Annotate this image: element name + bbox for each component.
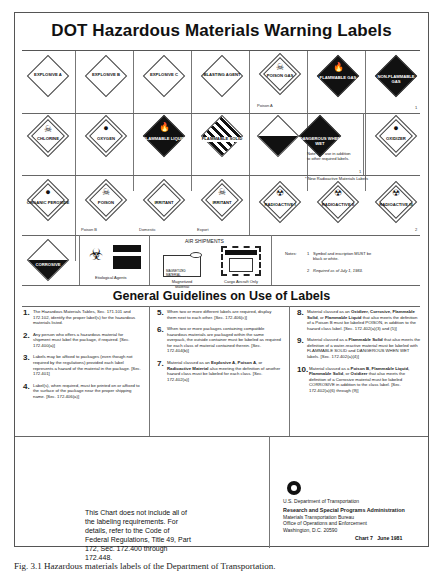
note-text: Symbol and inscription MUST be black or … bbox=[313, 251, 375, 261]
divider bbox=[271, 235, 272, 285]
row-divider bbox=[15, 436, 428, 437]
figure-caption: Fig. 3.1 Hazardous materials labels of t… bbox=[14, 561, 275, 571]
cargo-aircraft-only-label bbox=[221, 246, 261, 276]
footnote-ref: 1 bbox=[359, 169, 361, 174]
label-text: FLAMMABLE LIQUID bbox=[141, 137, 187, 142]
row-divider bbox=[22, 285, 420, 286]
label-text: EXPLOSIVE A bbox=[25, 73, 71, 78]
spontaneously-combustible-label-icon bbox=[257, 115, 299, 157]
label-text: EXPLOSIVE B bbox=[83, 73, 129, 78]
divider bbox=[363, 113, 364, 175]
divider bbox=[269, 436, 270, 548]
logo-center bbox=[291, 485, 297, 491]
divider bbox=[365, 51, 366, 191]
flame-icon: 🔥 bbox=[141, 122, 187, 132]
skull-icon: ☠ bbox=[25, 124, 71, 134]
radiation-trefoil-icon: ☢ bbox=[257, 188, 303, 198]
radiation-trefoil-icon: ☢ bbox=[315, 188, 361, 198]
guideline-item: 8.Material classed as an Oxidizer, Corro… bbox=[297, 309, 421, 331]
label-caption: Poison A bbox=[257, 103, 273, 108]
label-banner bbox=[225, 250, 257, 255]
label-text: BLASTING AGENT bbox=[199, 73, 245, 78]
guidelines-column-3: 8.Material classed as an Oxidizer, Corro… bbox=[297, 309, 421, 400]
label-text: CORROSIVE bbox=[25, 263, 71, 268]
chart-frame: DOT Hazardous Materials Warning Labels E… bbox=[14, 12, 429, 547]
etiological-agents-label: ☣ bbox=[87, 241, 143, 271]
note-number: 2 bbox=[307, 268, 309, 273]
divider bbox=[249, 183, 250, 235]
skull-icon: ☠ bbox=[199, 187, 245, 197]
skull-icon: ☠ bbox=[257, 62, 303, 72]
row-divider bbox=[22, 306, 420, 307]
label-text: ORGANIC PEROXIDE bbox=[25, 201, 71, 206]
cargo-caption: Cargo Aircraft Only bbox=[223, 279, 259, 284]
usage-note: Note: For use in addition to other requi… bbox=[307, 151, 351, 161]
divider bbox=[149, 306, 150, 436]
label-text: CHLORINE bbox=[25, 137, 71, 142]
label-text: NON-FLAMMABLE GAS bbox=[373, 75, 419, 84]
label-text: OXYGEN bbox=[83, 137, 129, 142]
guideline-item: 2.Any person who offers a hazardous mate… bbox=[23, 332, 141, 349]
label-block bbox=[113, 256, 141, 269]
label-text: FLAMMABLE GAS bbox=[315, 76, 361, 81]
note-text: Required as of July 1, 1983. bbox=[313, 268, 363, 273]
disclaimer-text: This Chart does not include all of the l… bbox=[85, 508, 193, 563]
label-text: DANGEROUS WHEN WET bbox=[297, 137, 343, 146]
divider bbox=[149, 235, 150, 285]
magnet-icon bbox=[190, 252, 202, 258]
guidelines-column-1: 1.The Hazardous Materials Tables, Sec. 1… bbox=[23, 309, 141, 406]
label-text: POISON GAS bbox=[257, 74, 303, 79]
divider bbox=[79, 235, 80, 285]
aircraft-icon bbox=[229, 258, 253, 272]
address: Washington, D.C. 20590 bbox=[283, 527, 405, 534]
label-text: IRRITANT bbox=[141, 201, 187, 206]
guideline-item: 3.Labels may be affixed to packages (eve… bbox=[23, 354, 141, 376]
divider bbox=[307, 51, 308, 191]
chart-id: Chart 7 June 1981 bbox=[355, 535, 402, 541]
label-text: MAGNETIZED MATERIAL bbox=[166, 269, 200, 277]
label-text: RADIOACTIVE II bbox=[315, 203, 361, 208]
flame-icon: 🔥 bbox=[315, 62, 361, 72]
corrosive-label-icon bbox=[27, 239, 69, 281]
label-text: RADIOACTIVE III bbox=[373, 203, 419, 208]
guideline-item: 7.Material classed as an Explosive A, Po… bbox=[157, 360, 281, 382]
flame-over-circle-icon: ● bbox=[25, 187, 71, 197]
guideline-item: 4.Label(s), when required, must be print… bbox=[23, 383, 141, 400]
label-text: POISON bbox=[83, 201, 129, 206]
skull-icon: ☠ bbox=[83, 187, 129, 197]
biohazard-icon: ☣ bbox=[89, 247, 103, 263]
magnetized-caption: Magnetized Material bbox=[165, 279, 199, 289]
grid-divider bbox=[22, 50, 420, 51]
divider bbox=[191, 51, 192, 191]
flame-over-circle-icon: ● bbox=[83, 123, 129, 133]
footnote-ref: 2 bbox=[415, 227, 417, 232]
divider bbox=[75, 51, 76, 261]
administration-name: Research and Special Programs Administra… bbox=[283, 507, 405, 514]
guideline-item: 5.When two or more different labels are … bbox=[157, 309, 281, 320]
radiation-trefoil-icon: ☢ bbox=[373, 188, 419, 198]
dot-logo-icon bbox=[287, 481, 301, 495]
label-text: EXPLOSIVE C bbox=[141, 73, 187, 78]
notes-label: Notes: bbox=[285, 251, 297, 256]
divider bbox=[249, 51, 250, 191]
guideline-item: 6.When two or more packages containing c… bbox=[157, 326, 281, 354]
footnote-ref: 1 bbox=[415, 105, 417, 110]
label-text: IRRITANT bbox=[199, 201, 245, 206]
divider bbox=[133, 51, 134, 191]
flame-over-circle-icon: ● bbox=[373, 123, 419, 133]
label-caption: Poison B bbox=[81, 227, 97, 232]
label-caption: Export bbox=[197, 227, 209, 232]
radioactive-header: * New Radioactive Materials Labels bbox=[305, 176, 368, 181]
air-shipments-heading: AIR SHIPMENTS bbox=[185, 238, 224, 244]
label-text: OXIDIZER bbox=[373, 137, 419, 142]
magnetized-material-label: MAGNETIZED MATERIAL bbox=[163, 255, 201, 277]
label-caption: Domestic bbox=[139, 227, 156, 232]
label-block bbox=[113, 245, 141, 252]
etiological-caption: Etiological Agents bbox=[95, 275, 127, 280]
guidelines-column-2: 5.When two or more different labels are … bbox=[157, 309, 281, 388]
agency-block: U.S. Department of Transportation Resear… bbox=[283, 498, 405, 533]
row-divider bbox=[22, 235, 420, 236]
label-text: RADIOACTIVE I bbox=[257, 203, 303, 208]
divider bbox=[289, 306, 290, 436]
guidelines-title: General Guidelines on Use of Labels bbox=[15, 289, 428, 303]
